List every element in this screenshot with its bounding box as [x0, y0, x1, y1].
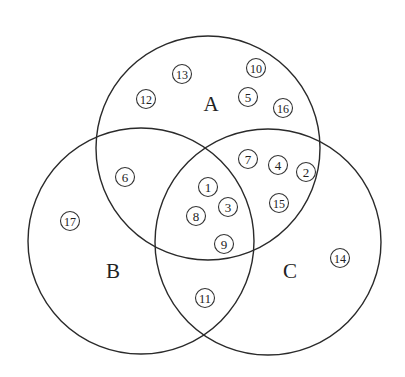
element-number: 12: [140, 92, 152, 107]
element-2: 2: [297, 163, 316, 182]
element-number: 5: [245, 90, 252, 105]
element-4: 4: [269, 156, 288, 175]
element-3: 3: [219, 198, 238, 217]
element-11: 11: [196, 289, 215, 308]
element-number: 7: [245, 152, 252, 167]
element-16: 16: [274, 99, 293, 118]
element-number: 4: [275, 158, 282, 173]
set-label-b: B: [106, 259, 120, 283]
element-15: 15: [270, 194, 289, 213]
element-number: 9: [221, 237, 228, 252]
element-13: 13: [173, 65, 192, 84]
element-number: 16: [277, 101, 289, 116]
element-number: 17: [64, 214, 76, 229]
element-number: 8: [193, 209, 200, 224]
element-14: 14: [331, 249, 350, 268]
element-9: 9: [215, 235, 234, 254]
element-number: 2: [303, 165, 310, 180]
element-number: 1: [205, 180, 212, 195]
element-number: 3: [225, 200, 232, 215]
set-label-a: A: [203, 92, 219, 116]
element-number: 14: [334, 251, 346, 266]
set-labels: ABC: [106, 92, 297, 283]
element-8: 8: [187, 207, 206, 226]
set-circle-a: [96, 36, 320, 260]
element-number: 15: [273, 196, 285, 211]
element-number: 10: [250, 61, 262, 76]
element-12: 12: [137, 90, 156, 109]
element-7: 7: [239, 150, 258, 169]
element-5: 5: [239, 88, 258, 107]
element-1: 1: [199, 178, 218, 197]
element-17: 17: [61, 212, 80, 231]
element-number: 13: [176, 67, 188, 82]
venn-diagram: ABC 1213105166742151389171114: [0, 0, 405, 377]
element-6: 6: [116, 168, 135, 187]
element-number: 6: [122, 170, 129, 185]
element-10: 10: [247, 59, 266, 78]
element-number: 11: [199, 291, 211, 306]
set-label-c: C: [283, 259, 297, 283]
